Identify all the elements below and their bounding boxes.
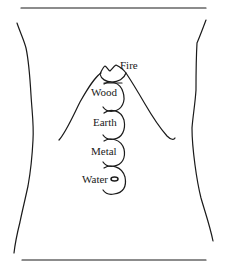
left-torso-outline bbox=[14, 23, 33, 253]
torso-diagram bbox=[0, 0, 226, 268]
water-dot-icon bbox=[111, 177, 118, 181]
left-rib-line bbox=[59, 73, 101, 140]
label-fire: Fire bbox=[120, 60, 138, 71]
right-torso-outline bbox=[192, 20, 213, 241]
label-earth: Earth bbox=[93, 117, 117, 128]
label-water: Water bbox=[82, 174, 108, 185]
label-metal: Metal bbox=[91, 146, 117, 157]
label-wood: Wood bbox=[91, 87, 117, 98]
right-rib-line bbox=[126, 73, 175, 139]
